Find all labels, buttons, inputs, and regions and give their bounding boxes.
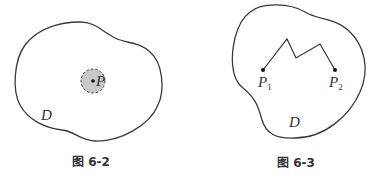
point-p xyxy=(91,79,95,83)
figure-caption: 图 6-2 xyxy=(72,155,110,169)
region-d-label: D xyxy=(40,107,52,123)
figure-caption: 图 6-3 xyxy=(277,156,315,170)
point-p1 xyxy=(261,68,265,72)
point-p2-label: P2 xyxy=(328,74,343,92)
figure-6-3: P1 P2 D 图 6-3 xyxy=(232,5,365,170)
point-p-label: P xyxy=(95,73,105,89)
point-p1-label: P1 xyxy=(257,74,272,92)
figure-6-2: P D 图 6-2 xyxy=(15,22,162,169)
diagram-canvas: P D 图 6-2 P1 P2 D 图 6-3 xyxy=(0,0,377,180)
point-p2 xyxy=(333,68,337,72)
region-d-label: D xyxy=(288,114,300,130)
polygonal-path xyxy=(263,39,335,70)
